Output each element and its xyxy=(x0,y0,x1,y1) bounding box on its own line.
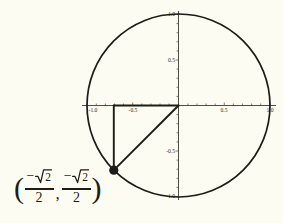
coord-x-radical: 2 xyxy=(35,168,52,187)
coord-close-paren: ) xyxy=(91,174,101,201)
coord-x-denominator: 2 xyxy=(36,190,43,205)
coord-y-denominator: 2 xyxy=(73,190,80,205)
coord-x-numerator: − 2 xyxy=(25,168,54,188)
x-tick-label-pos-half: 0.5 xyxy=(221,107,228,113)
coord-y-radical: 2 xyxy=(72,168,89,187)
sqrt-icon: 2 xyxy=(35,168,52,184)
sqrt-icon: 2 xyxy=(72,168,89,184)
reference-triangle xyxy=(114,106,179,171)
triangle-hypotenuse-radius xyxy=(114,106,179,171)
terminal-point-marker xyxy=(109,166,118,175)
coord-open-paren: ( xyxy=(14,174,24,201)
figure-canvas: -1.0 -0.5 0.5 1.0 1.0 0.5 -0.5 -1.0 ( − xyxy=(0,0,283,223)
point-coordinate-label: ( − 2 2 , − 2 xyxy=(14,168,101,205)
coord-y-numerator: − 2 xyxy=(62,168,91,188)
coord-y-fraction: − 2 2 xyxy=(62,168,91,205)
coord-y-minus: − xyxy=(64,169,72,183)
y-tick-label-neg-half: -0.5 xyxy=(166,148,175,154)
coord-comma: , xyxy=(54,185,61,202)
y-tick-label-pos-half: 0.5 xyxy=(168,57,175,63)
coord-x-fraction: − 2 2 xyxy=(25,168,54,205)
coord-x-radicand: 2 xyxy=(45,171,51,183)
coord-x-minus: − xyxy=(27,169,35,183)
coord-y-radicand: 2 xyxy=(82,171,88,183)
x-tick-label-neg-one: -1.0 xyxy=(89,107,98,113)
x-tick-label-neg-half: -0.5 xyxy=(129,107,138,113)
